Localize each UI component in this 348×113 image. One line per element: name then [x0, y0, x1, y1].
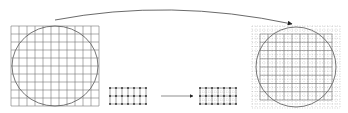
diagram-canvas: [0, 0, 348, 113]
top-curved-arrow: [55, 10, 292, 24]
right-grid-with-circle: [252, 26, 340, 108]
small-grid-left: [109, 87, 147, 105]
left-grid-with-circle: [11, 26, 99, 106]
small-grid-right: [199, 87, 237, 105]
